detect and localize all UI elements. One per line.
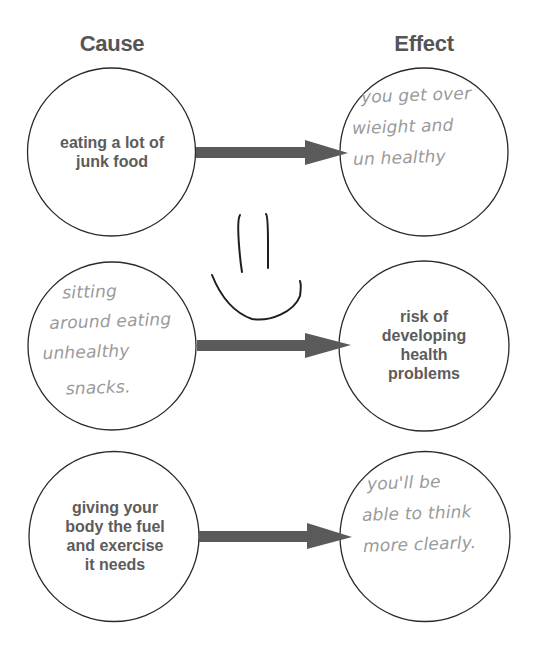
- effect-text-2-line: health: [349, 345, 499, 364]
- effect-handwriting-3: you'll be able to think more clearly.: [360, 465, 476, 562]
- effect-text-2-line: problems: [349, 364, 499, 383]
- effect-handwriting-1: you get over wieight and un healthy: [350, 78, 473, 175]
- arrow-icon-1: [196, 140, 348, 165]
- effect-handwriting-1-line: un healthy: [353, 140, 474, 175]
- arrow-icon-3: [199, 523, 352, 549]
- cause-text-1-line: eating a lot of: [37, 133, 187, 152]
- smiley-mouth: [212, 275, 301, 320]
- effect-handwriting-1-line: you get over: [350, 78, 471, 113]
- effect-handwriting-3-line: you'll be: [360, 465, 474, 500]
- effect-handwriting-3-line: able to think: [361, 496, 475, 531]
- effect-text-2: risk of developing health problems: [349, 307, 499, 383]
- cause-text-1-line: junk food: [37, 152, 187, 171]
- cause-text-3-line: body the fuel: [40, 517, 190, 536]
- effect-handwriting-1-line: wieight and: [351, 109, 472, 144]
- arrow-icon-2: [197, 333, 351, 358]
- smiley-left-eye: [238, 215, 242, 272]
- cause-handwriting-2-line: snacks.: [43, 370, 174, 405]
- cause-text-3-line: giving your: [40, 498, 190, 517]
- cause-text-3: giving your body the fuel and exercise i…: [40, 498, 190, 574]
- smiley-right-eye: [266, 214, 268, 268]
- effect-text-2-line: risk of: [349, 307, 499, 326]
- cause-text-3-line: it needs: [40, 555, 190, 574]
- cause-handwriting-2-line: unhealthy: [42, 334, 173, 369]
- smiley-face-icon: [212, 214, 301, 320]
- cause-handwriting-2: sitting around eating unhealthy snacks.: [40, 274, 174, 404]
- cause-text-3-line: and exercise: [40, 536, 190, 555]
- effect-handwriting-3-line: more clearly.: [363, 527, 477, 562]
- cause-handwriting-2-line: sitting: [40, 274, 171, 309]
- cause-handwriting-2-line: around eating: [41, 304, 172, 339]
- cause-text-1: eating a lot of junk food: [37, 133, 187, 171]
- effect-text-2-line: developing: [349, 326, 499, 345]
